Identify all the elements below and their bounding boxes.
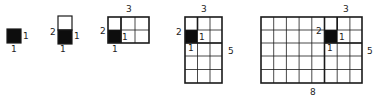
fig2-label-bottom: 1 xyxy=(60,45,66,54)
grid-diagram: 1 1 2 1 1 3 2 1 1 3 2 1 1 5 3 2 1 1 5 8 xyxy=(0,0,377,104)
fig4-label-inner-below: 1 xyxy=(188,44,194,53)
fig4-label-top: 3 xyxy=(201,5,207,14)
fig3-label-inner-right: 1 xyxy=(122,33,128,42)
fig4-label-left: 2 xyxy=(176,28,182,37)
cell xyxy=(58,16,72,30)
fig5-label-bottom: 8 xyxy=(310,88,316,97)
fig3-label-top: 3 xyxy=(126,5,132,14)
fig4-label-right: 5 xyxy=(228,47,234,56)
unit-cell-filled xyxy=(7,29,21,43)
unit-cell-filled xyxy=(185,30,198,43)
unit-cell-filled xyxy=(58,30,72,44)
figure-5 xyxy=(261,17,362,83)
fig5-label-left: 2 xyxy=(316,27,322,36)
fig5-label-right: 5 xyxy=(367,47,373,56)
fig5-label-inner-right: 1 xyxy=(339,33,345,42)
fig1-label-bottom: 1 xyxy=(11,45,17,54)
fig4-label-inner-right: 1 xyxy=(199,33,205,42)
fig2-label-right: 1 xyxy=(74,32,80,41)
figure-3 xyxy=(108,17,149,43)
fig1-label-right: 1 xyxy=(23,32,29,41)
figure-2 xyxy=(58,16,72,44)
fig2-label-left: 2 xyxy=(50,28,56,37)
unit-cell-filled xyxy=(108,30,121,43)
figure-1 xyxy=(7,29,21,43)
fig5-label-top: 3 xyxy=(343,5,349,14)
unit-cell-filled xyxy=(325,30,338,43)
fig3-label-left: 2 xyxy=(100,27,106,36)
fig3-label-bottom: 1 xyxy=(112,45,118,54)
fig5-label-inner-below: 1 xyxy=(327,44,333,53)
